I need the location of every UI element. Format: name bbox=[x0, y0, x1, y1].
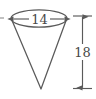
height-dimension: 18 bbox=[73, 16, 92, 89]
height-label: 18 bbox=[74, 45, 91, 60]
cone-diagram-svg: 14 18 bbox=[0, 0, 96, 99]
cone-figure: 14 18 bbox=[0, 0, 96, 99]
diameter-label: 14 bbox=[31, 12, 48, 27]
diameter-dimension: 14 bbox=[14, 12, 65, 27]
cone-slant-sides bbox=[11, 19, 67, 90]
